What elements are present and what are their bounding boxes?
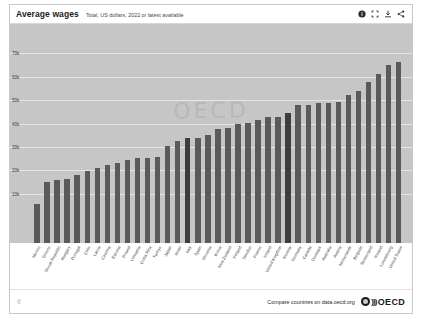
bar[interactable] <box>275 117 281 243</box>
bar-column[interactable] <box>293 30 303 243</box>
bar-column[interactable] <box>143 30 153 243</box>
bar[interactable] <box>265 117 271 243</box>
y-tick-label: 10k <box>12 191 19 196</box>
bar[interactable] <box>386 65 392 243</box>
bar-column[interactable] <box>72 30 82 243</box>
x-tick: Germany <box>293 243 303 289</box>
bar-column[interactable] <box>42 30 52 243</box>
oecd-wordmark: OECD <box>378 297 405 307</box>
bar[interactable] <box>54 180 60 243</box>
x-tick-label: France <box>252 245 262 259</box>
bar[interactable] <box>295 105 301 243</box>
fullscreen-icon[interactable] <box>371 10 379 18</box>
bar[interactable] <box>326 103 332 243</box>
bar-column[interactable] <box>122 30 132 243</box>
bar-column[interactable] <box>303 30 313 243</box>
bar-column[interactable] <box>62 30 72 243</box>
x-axis: MexicoGreeceSlovak RepublicHungaryPortug… <box>10 243 412 289</box>
compare-link[interactable]: Compare countries on data.oecd.org <box>267 299 355 305</box>
bar[interactable] <box>155 157 161 243</box>
bar-column[interactable] <box>364 30 374 243</box>
bar-column[interactable] <box>163 30 173 243</box>
bar[interactable] <box>235 124 241 243</box>
bar-column[interactable] <box>384 30 394 243</box>
bar[interactable] <box>356 91 362 243</box>
bar[interactable] <box>366 82 372 243</box>
y-axis: 70k60k50k40k30k20k10k <box>10 24 32 243</box>
bar[interactable] <box>105 165 111 243</box>
bar-column[interactable] <box>263 30 273 243</box>
bar-column[interactable] <box>32 30 42 243</box>
y-tick-label: 50k <box>12 98 19 103</box>
bar-column[interactable] <box>52 30 62 243</box>
bar[interactable] <box>225 128 231 243</box>
bar[interactable] <box>115 163 121 243</box>
bar[interactable] <box>135 158 141 243</box>
bar-column[interactable] <box>173 30 183 243</box>
bar-column[interactable] <box>92 30 102 243</box>
bar[interactable] <box>34 204 40 243</box>
bar-column[interactable] <box>374 30 384 243</box>
bar-column[interactable] <box>82 30 92 243</box>
x-tick-label: Israel <box>173 245 182 256</box>
bar[interactable] <box>215 129 221 243</box>
bar-column[interactable] <box>193 30 203 243</box>
x-tick-label: Sweden <box>241 245 252 260</box>
bar-column[interactable] <box>183 30 193 243</box>
bar[interactable] <box>74 175 80 243</box>
bar-column[interactable] <box>102 30 112 243</box>
bar[interactable] <box>195 138 201 243</box>
bar[interactable] <box>85 171 91 243</box>
bar[interactable] <box>396 62 402 243</box>
info-icon[interactable] <box>358 10 366 18</box>
bar[interactable] <box>336 102 342 243</box>
y-tick-label: 70k <box>12 51 19 56</box>
bar-column[interactable] <box>273 30 283 243</box>
bar[interactable] <box>145 158 151 243</box>
x-tick: Chile <box>82 243 92 289</box>
bar-column[interactable] <box>313 30 323 243</box>
bar[interactable] <box>306 105 312 243</box>
x-tick: Sweden <box>243 243 253 289</box>
bar[interactable] <box>255 120 261 243</box>
bar[interactable] <box>165 146 171 243</box>
download-icon[interactable] <box>384 10 392 18</box>
bar[interactable] <box>64 179 70 243</box>
bar-column[interactable] <box>203 30 213 243</box>
x-tick-label: Chile <box>83 245 92 256</box>
x-tick: Lithuania <box>132 243 142 289</box>
bar[interactable] <box>245 123 251 243</box>
bar-column[interactable] <box>333 30 343 243</box>
bar[interactable] <box>95 168 101 243</box>
bar-column[interactable] <box>153 30 163 243</box>
bar[interactable] <box>185 138 191 243</box>
bar-column[interactable] <box>243 30 253 243</box>
bar-column[interactable] <box>283 30 293 243</box>
share-icon[interactable] <box>397 10 405 18</box>
x-tick: Canada <box>303 243 313 289</box>
bar[interactable] <box>316 103 322 243</box>
bar-column[interactable] <box>213 30 223 243</box>
bar[interactable] <box>125 160 131 244</box>
bar-column[interactable] <box>253 30 263 243</box>
x-tick: New Zealand <box>223 243 233 289</box>
bar-column[interactable] <box>132 30 142 243</box>
bar[interactable] <box>205 135 211 243</box>
bar[interactable] <box>175 141 181 243</box>
bar-column[interactable] <box>112 30 122 243</box>
bar[interactable] <box>376 74 382 243</box>
chart-footer: © Compare countries on data.oecd.org )))… <box>10 289 412 313</box>
chart-header: Average wages Total, US dollars, 2022 or… <box>10 5 412 24</box>
bar-column[interactable] <box>233 30 243 243</box>
x-tick: Mexico <box>32 243 42 289</box>
bar[interactable] <box>346 95 352 243</box>
bar-column[interactable] <box>354 30 364 243</box>
bar[interactable] <box>285 113 291 243</box>
bar-column[interactable] <box>394 30 404 243</box>
bar-column[interactable] <box>343 30 353 243</box>
bar-column[interactable] <box>323 30 333 243</box>
bar-column[interactable] <box>223 30 233 243</box>
x-tick: Finland <box>233 243 243 289</box>
y-tick-label: 30k <box>12 144 19 149</box>
bar[interactable] <box>44 182 50 243</box>
